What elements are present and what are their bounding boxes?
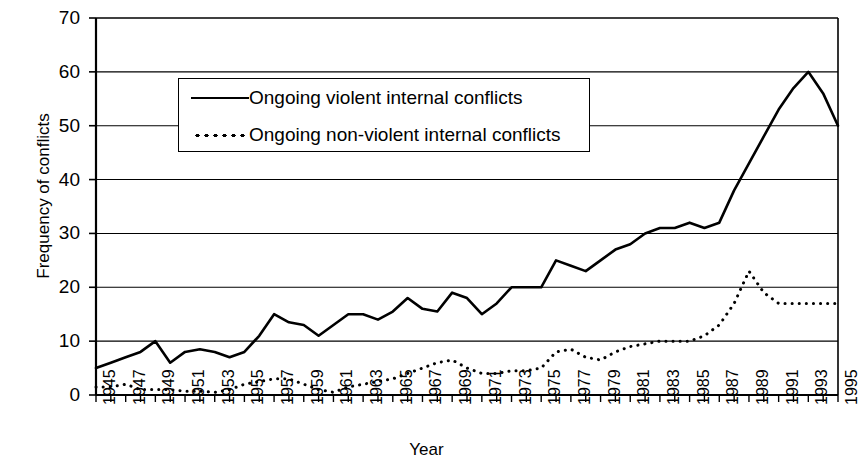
x-axis-label: Year <box>0 440 853 460</box>
x-tick-label: 1965 <box>399 369 415 405</box>
x-tick-label: 1991 <box>785 369 801 405</box>
x-tick-label: 1975 <box>547 369 563 405</box>
x-tick-label: 1961 <box>339 369 355 405</box>
y-tick-label: 50 <box>34 116 80 135</box>
x-tick-label: 1995 <box>844 369 860 405</box>
legend-item-violent: Ongoing violent internal conflicts <box>179 79 589 116</box>
x-tick-label: 1981 <box>636 369 652 405</box>
x-tick-label: 1957 <box>280 369 296 405</box>
y-tick-label: 70 <box>34 8 80 27</box>
x-tick-label: 1969 <box>458 369 474 405</box>
x-tick-label: 1953 <box>221 369 237 405</box>
x-tick-label: 1985 <box>696 369 712 405</box>
x-tick-label: 1951 <box>191 369 207 405</box>
y-tick-label: 40 <box>34 170 80 189</box>
x-tick-label: 1983 <box>666 369 682 405</box>
legend-label-nonviolent: Ongoing non-violent internal conflicts <box>249 125 561 144</box>
x-tick-label: 1977 <box>577 369 593 405</box>
x-tick-label: 1989 <box>755 369 771 405</box>
x-tick-label: 1993 <box>814 369 830 405</box>
x-tick-label: 1959 <box>310 369 326 405</box>
x-tick-label: 1971 <box>488 369 504 405</box>
x-tick-label: 1967 <box>428 369 444 405</box>
x-tick-label: 1945 <box>102 369 118 405</box>
x-tick-label: 1979 <box>607 369 623 405</box>
x-tick-label: 1987 <box>725 369 741 405</box>
x-tick-label: 1955 <box>250 369 266 405</box>
chart-legend: Ongoing violent internal conflicts Ongoi… <box>178 78 590 152</box>
y-tick-label: 0 <box>34 385 80 404</box>
y-tick-label: 20 <box>34 277 80 296</box>
x-tick-label: 1947 <box>132 369 148 405</box>
y-tick-label: 10 <box>34 331 80 350</box>
x-tick-label: 1973 <box>518 369 534 405</box>
y-tick-label: 60 <box>34 62 80 81</box>
y-tick-label: 30 <box>34 223 80 242</box>
legend-solid-line-swatch <box>191 91 249 105</box>
legend-item-nonviolent: Ongoing non-violent internal conflicts <box>179 116 589 153</box>
x-tick-label: 1949 <box>161 369 177 405</box>
legend-dotted-line-swatch <box>191 128 249 142</box>
x-tick-label: 1963 <box>369 369 385 405</box>
legend-label-violent: Ongoing violent internal conflicts <box>249 88 523 107</box>
